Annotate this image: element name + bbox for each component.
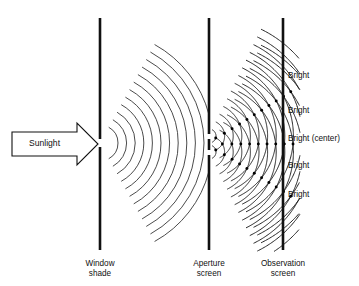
interference-dot [223,132,226,135]
bright-label-0: Bright [288,71,310,80]
interference-dot [275,186,278,189]
interference-dot [248,143,251,146]
interference-dot [231,158,234,161]
interference-dot [253,113,256,116]
bright-label-3: Bright [288,161,310,170]
window-shade-caption-line2: shade [89,269,112,278]
aperture-screen-caption-line1: Aperture [193,259,225,268]
interference-dot [223,153,226,156]
observation-screen-caption-line2: screen [271,269,296,278]
interference-dot [239,143,242,146]
interference-dot [214,136,217,139]
interference-dot [267,181,270,184]
diffraction-figure: Sunlight BrightBrightBright (center)Brig… [0,0,359,286]
interference-dot [260,109,263,112]
interference-dot [230,143,233,146]
interference-dot [275,100,278,103]
interference-dot [245,167,248,170]
sunlight-label: Sunlight [29,138,61,148]
interference-dot [214,149,217,152]
interference-dot [274,143,277,146]
interference-dot [257,143,260,146]
interference-dot [267,104,270,107]
interference-dot [245,118,248,121]
interference-dot [238,162,241,165]
bright-label-2: Bright (center) [288,134,340,143]
figure-canvas: Sunlight BrightBrightBright (center)Brig… [0,0,359,286]
interference-dot [260,176,263,179]
observation-screen-caption-line1: Observation [261,259,306,268]
interference-dot [266,143,269,146]
interference-dot [289,90,292,93]
interference-dot [238,123,241,126]
window-shade-caption-line1: Window [85,259,114,268]
interference-dot [231,127,234,130]
aperture-screen-caption-line2: screen [197,269,222,278]
interference-dot [221,143,224,146]
bright-label-4: Bright [288,190,310,199]
bright-label-1: Bright [288,106,310,115]
interference-dot [253,172,256,175]
